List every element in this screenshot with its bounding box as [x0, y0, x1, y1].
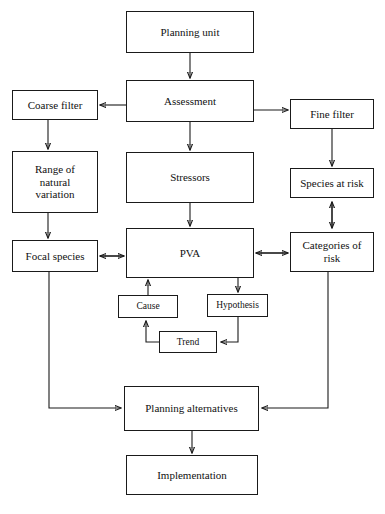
node-implementation-label: Implementation — [154, 469, 230, 482]
node-species-at-risk-label: Species at risk — [297, 177, 367, 190]
node-range-of-natural-variation-label: Range of natural variation — [32, 163, 78, 201]
node-assessment[interactable]: Assessment — [126, 80, 254, 122]
edge-hypothesis-to-trend — [221, 317, 238, 342]
node-range-of-natural-variation[interactable]: Range of natural variation — [12, 151, 98, 213]
node-categories-of-risk-label: Categories of risk — [300, 239, 365, 264]
node-stressors-label: Stressors — [167, 171, 213, 184]
node-coarse-filter[interactable]: Coarse filter — [12, 90, 98, 120]
node-trend-label: Trend — [174, 337, 202, 348]
node-cause[interactable]: Cause — [118, 295, 178, 318]
node-fine-filter-label: Fine filter — [307, 108, 357, 121]
edge-trend-to-cause — [146, 321, 159, 342]
node-pva[interactable]: PVA — [126, 228, 254, 278]
node-fine-filter[interactable]: Fine filter — [290, 99, 374, 129]
node-focal-species-label: Focal species — [23, 250, 88, 263]
node-planning-alternatives-label: Planning alternatives — [142, 402, 241, 415]
node-planning-unit-label: Planning unit — [158, 26, 223, 39]
node-hypothesis[interactable]: Hypothesis — [207, 294, 268, 317]
node-implementation[interactable]: Implementation — [126, 455, 258, 495]
node-categories-of-risk[interactable]: Categories of risk — [290, 232, 374, 272]
edge-categories-to-planning-alternatives — [262, 272, 328, 408]
flowchart-canvas: Planning unit Assessment Coarse filter F… — [0, 0, 385, 514]
edge-focal-species-to-planning-alternatives — [49, 272, 121, 408]
node-assessment-label: Assessment — [161, 95, 219, 108]
node-hypothesis-label: Hypothesis — [213, 300, 262, 311]
node-cause-label: Cause — [133, 301, 162, 312]
node-trend[interactable]: Trend — [159, 331, 217, 353]
node-planning-alternatives[interactable]: Planning alternatives — [124, 386, 259, 431]
node-stressors[interactable]: Stressors — [126, 152, 254, 203]
node-focal-species[interactable]: Focal species — [12, 240, 98, 272]
node-species-at-risk[interactable]: Species at risk — [290, 168, 374, 198]
node-pva-label: PVA — [177, 247, 204, 260]
node-coarse-filter-label: Coarse filter — [25, 99, 86, 112]
node-planning-unit[interactable]: Planning unit — [126, 11, 254, 53]
